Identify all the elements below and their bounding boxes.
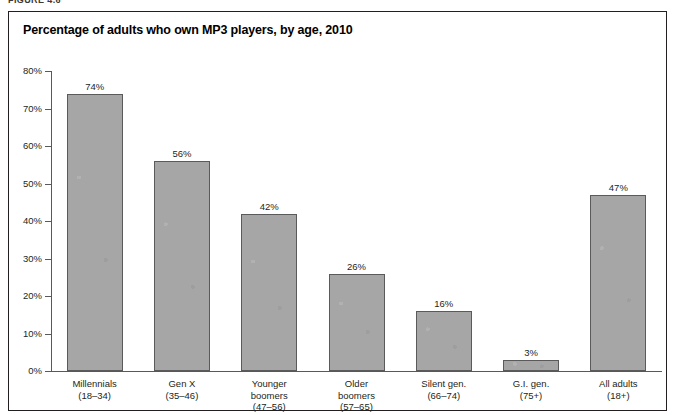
x-axis-category-label: Older boomers(57–65) — [313, 378, 400, 413]
y-axis-tick-mark — [45, 334, 51, 335]
y-axis-tick-mark — [45, 259, 51, 260]
y-axis-tick-label: 70% — [23, 103, 42, 114]
y-axis-tick-mark — [45, 221, 51, 222]
bar-value-label: 26% — [347, 261, 366, 272]
x-axis-line — [51, 371, 662, 372]
y-axis-tick-mark — [45, 146, 51, 147]
category-name: Millennials — [51, 378, 138, 390]
category-name: Younger boomers — [226, 378, 313, 401]
bar-value-label: 47% — [609, 182, 628, 193]
y-axis-tick-mark — [45, 109, 51, 110]
x-axis-category-label: All adults(18+) — [575, 378, 662, 401]
y-axis-tick-label: 0% — [28, 365, 42, 376]
bar[interactable]: 16% — [416, 311, 472, 371]
category-age-range: (18–34) — [51, 390, 138, 402]
figure-caption: FIGURE 4.6 — [8, 0, 61, 3]
x-axis-category-label: Gen X(35–46) — [138, 378, 225, 401]
bar-value-label: 16% — [434, 298, 453, 309]
bar[interactable]: 26% — [329, 274, 385, 372]
bar[interactable]: 47% — [590, 195, 646, 371]
bar-value-label: 42% — [260, 201, 279, 212]
category-age-range: (35–46) — [138, 390, 225, 402]
plot-area: 0%10%20%30%40%50%60%70%80% 74%56%42%26%1… — [51, 71, 662, 371]
y-axis-tick-mark — [45, 371, 51, 372]
y-axis-tick-mark — [45, 296, 51, 297]
y-axis-tick-label: 10% — [23, 328, 42, 339]
x-axis-category-label: Millennials(18–34) — [51, 378, 138, 401]
y-axis-tick-label: 80% — [23, 65, 42, 76]
category-name: All adults — [575, 378, 662, 390]
y-axis-tick-label: 40% — [23, 215, 42, 226]
category-name: G.I. gen. — [487, 378, 574, 390]
bar-value-label: 3% — [524, 347, 538, 358]
x-axis-category-label: Silent gen.(66–74) — [400, 378, 487, 401]
category-name: Older boomers — [313, 378, 400, 401]
category-age-range: (57–65) — [313, 401, 400, 413]
bar[interactable]: 74% — [67, 94, 123, 372]
y-axis-tick-mark — [45, 184, 51, 185]
y-axis-tick-label: 60% — [23, 140, 42, 151]
y-axis-line — [51, 71, 52, 372]
category-name: Gen X — [138, 378, 225, 390]
y-axis-tick-label: 50% — [23, 178, 42, 189]
bar[interactable]: 56% — [154, 161, 210, 371]
category-age-range: (66–74) — [400, 390, 487, 402]
category-age-range: (75+) — [487, 390, 574, 402]
category-age-range: (18+) — [575, 390, 662, 402]
bar-value-label: 74% — [85, 81, 104, 92]
y-axis-tick-mark — [45, 71, 51, 72]
y-axis-tick-label: 30% — [23, 253, 42, 264]
figure-panel: Percentage of adults who own MP3 players… — [8, 11, 667, 411]
y-axis-tick-label: 20% — [23, 290, 42, 301]
category-name: Silent gen. — [400, 378, 487, 390]
category-age-range: (47–56) — [226, 401, 313, 413]
x-axis-category-label: G.I. gen.(75+) — [487, 378, 574, 401]
x-axis-category-label: Younger boomers(47–56) — [226, 378, 313, 413]
bar[interactable]: 42% — [241, 214, 297, 372]
bar-value-label: 56% — [172, 148, 191, 159]
chart-title: Percentage of adults who own MP3 players… — [23, 23, 353, 37]
bar[interactable]: 3% — [503, 360, 559, 371]
